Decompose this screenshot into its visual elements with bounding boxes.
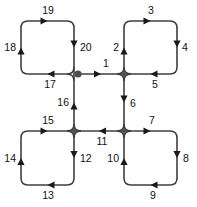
arrowhead-3-right: [144, 17, 151, 24]
corner-arc: [124, 74, 131, 81]
corner-arc: [170, 67, 177, 74]
arrowhead-16-up: [70, 103, 77, 110]
edge-label-12: 12: [80, 152, 92, 164]
edge-label-14: 14: [4, 152, 16, 164]
arrowhead-17-left: [48, 70, 55, 77]
arrowhead-1-right: [94, 70, 101, 77]
diagram-canvas: 1234567891011121314151617181920: [0, 0, 197, 207]
corner-arc: [74, 131, 81, 138]
arrowhead-2-up: [120, 48, 127, 55]
corner-arc: [170, 21, 177, 28]
arrowhead-11-left: [99, 127, 106, 134]
corner-arc: [170, 131, 177, 138]
arrowhead-12-down: [70, 151, 77, 158]
corner-arc: [124, 124, 131, 131]
arrowhead-9-left: [151, 181, 158, 188]
pinwheel-circuit-diagram: 1234567891011121314151617181920: [0, 0, 197, 207]
edge-label-8: 8: [183, 152, 189, 164]
edge-labels-layer: 1234567891011121314151617181920: [4, 4, 189, 201]
corner-arc: [117, 67, 124, 74]
arrowhead-14-up: [17, 158, 24, 165]
corner-arc: [21, 131, 28, 138]
edge-label-20: 20: [80, 41, 92, 53]
corner-arc: [124, 178, 131, 185]
edge-label-5: 5: [152, 78, 158, 90]
arrowhead-6-down: [120, 96, 127, 103]
arrowheads-layer: [17, 17, 180, 188]
corner-arc: [67, 74, 74, 81]
corner-arc: [124, 131, 131, 138]
corner-arc: [21, 21, 28, 28]
corner-arc: [170, 178, 177, 185]
edge-label-13: 13: [42, 189, 54, 201]
corner-arc: [67, 131, 74, 138]
start-dot: [74, 70, 81, 77]
edge-label-11: 11: [97, 135, 108, 147]
edge-label-7: 7: [149, 114, 155, 126]
arrowhead-13-left: [48, 181, 55, 188]
edge-label-16: 16: [57, 96, 69, 108]
arrowhead-20-down: [70, 41, 77, 48]
corner-arc: [67, 178, 74, 185]
arrowhead-19-right: [41, 17, 48, 24]
corner-arc: [21, 178, 28, 185]
corner-arc: [21, 67, 28, 74]
corner-arc: [74, 124, 81, 131]
corner-arc: [124, 21, 131, 28]
edge-label-1: 1: [103, 57, 109, 69]
edge-label-4: 4: [182, 41, 188, 53]
arrowhead-4-down: [173, 41, 180, 48]
corner-arc: [67, 124, 74, 131]
corner-arc: [117, 74, 124, 81]
edges-layer: [21, 21, 177, 185]
edge-label-18: 18: [4, 41, 16, 53]
arrowhead-7-right: [144, 127, 151, 134]
corner-arc: [124, 67, 131, 74]
edge-label-6: 6: [130, 97, 136, 109]
corner-arc: [117, 124, 124, 131]
corner-arc: [117, 131, 124, 138]
corner-arc: [67, 67, 74, 74]
arrowhead-15-right: [41, 127, 48, 134]
edge-label-15: 15: [42, 114, 54, 126]
edge-label-2: 2: [113, 41, 119, 53]
arrowhead-8-down: [173, 151, 180, 158]
arrowhead-5-left: [151, 70, 158, 77]
edge-label-9: 9: [150, 189, 156, 201]
edge-label-3: 3: [148, 4, 154, 16]
arrowhead-18-up: [17, 48, 24, 55]
edge-label-19: 19: [42, 4, 54, 16]
edge-label-17: 17: [44, 78, 56, 90]
arrowhead-10-up: [120, 158, 127, 165]
edge-label-10: 10: [107, 152, 119, 164]
corner-arc: [67, 21, 74, 28]
